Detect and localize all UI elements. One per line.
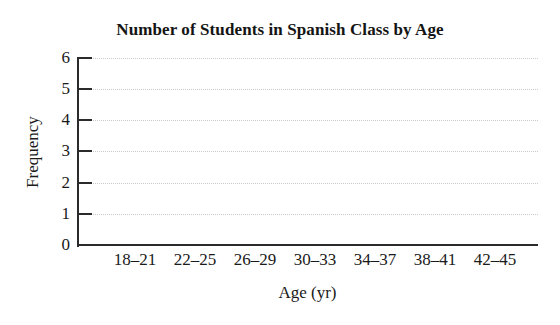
chart-title: Number of Students in Spanish Class by A… <box>0 20 560 40</box>
x-tick-label-5: 38–41 <box>414 250 457 270</box>
y-axis-line <box>77 57 79 247</box>
gridline-2 <box>79 183 538 184</box>
y-tick-label-0: 0 <box>48 236 70 253</box>
x-axis-title: Age (yr) <box>78 283 537 303</box>
x-tick-label-0: 18–21 <box>114 250 157 270</box>
gridline-3 <box>79 151 538 152</box>
y-tick-mark-3 <box>79 150 92 152</box>
x-tick-label-1: 22–25 <box>174 250 217 270</box>
y-axis-title-text: Frequency <box>23 116 43 188</box>
y-tick-label-3: 3 <box>48 142 70 159</box>
y-tick-label-5: 5 <box>48 80 70 97</box>
chart-figure: Number of Students in Spanish Class by A… <box>0 0 560 325</box>
x-axis-line <box>77 244 538 246</box>
y-tick-mark-6 <box>79 57 92 59</box>
y-tick-label-1: 1 <box>48 205 70 222</box>
x-tick-label-4: 34–37 <box>354 250 397 270</box>
gridline-4 <box>79 120 538 121</box>
y-tick-label-4: 4 <box>48 111 70 128</box>
y-tick-mark-4 <box>79 119 92 121</box>
gridline-6 <box>79 58 538 59</box>
x-tick-label-3: 30–33 <box>294 250 337 270</box>
x-tick-label-6: 42–45 <box>474 250 517 270</box>
y-tick-label-6: 6 <box>48 49 70 66</box>
gridline-5 <box>79 89 538 90</box>
gridline-1 <box>79 214 538 215</box>
x-tick-label-2: 26–29 <box>234 250 277 270</box>
y-tick-mark-2 <box>79 182 92 184</box>
y-tick-mark-1 <box>79 213 92 215</box>
y-tick-mark-5 <box>79 88 92 90</box>
y-tick-label-2: 2 <box>48 174 70 191</box>
